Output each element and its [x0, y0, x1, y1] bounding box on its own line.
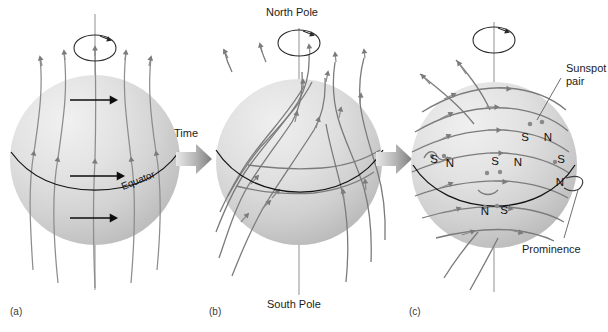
sunspot-label-n-5: N [481, 205, 489, 217]
sunspot-pair-label-line1: Sunspot [566, 62, 606, 74]
panel-caption-b: (b) [209, 306, 221, 317]
panel-a: Equator (a) [10, 14, 180, 317]
solar-magnetic-field-figure: Equator (a) Time [0, 0, 608, 332]
panel-c: S N S N S N S N N S Sunspot pair Promine… [409, 22, 606, 317]
sunspot-label-s-1: S [521, 131, 529, 143]
sunspot-label-s-4: S [557, 153, 565, 165]
sunspot-pair-label-line2: pair [566, 75, 585, 87]
sunspot-label-s-3: S [491, 155, 499, 167]
sunspot-label-n-1: N [544, 131, 552, 143]
sunspot-label-n-4: N [556, 176, 564, 188]
sunspot-label-n-2: N [446, 157, 454, 169]
panel-caption-c: (c) [409, 306, 421, 317]
sunspot-label-s-5: S [500, 204, 508, 216]
time-label: Time [174, 127, 198, 139]
panel-caption-a: (a) [10, 306, 22, 317]
panel-b: North Pole South Pole (b) [209, 6, 385, 317]
north-pole-label: North Pole [266, 6, 318, 18]
sunspot-label-n-3: N [514, 156, 522, 168]
south-pole-label: South Pole [267, 298, 321, 310]
time-arrow-icon [176, 144, 212, 174]
prominence-label: Prominence [522, 243, 581, 255]
sunspot-label-s-2: S [430, 153, 438, 165]
